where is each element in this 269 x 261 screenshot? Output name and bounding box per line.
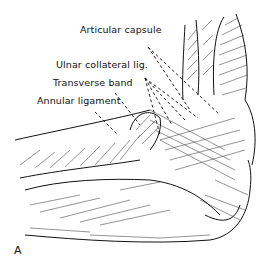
panel-label: A [14,244,22,257]
label-transverse-band: Transverse band [53,77,133,88]
label-annular-ligament: Annular ligament [37,95,121,106]
label-ulnar-collateral-ligament: Ulnar collateral lig. [56,59,148,70]
elbow-illustration [0,0,269,261]
label-articular-capsule: Articular capsule [80,24,162,35]
